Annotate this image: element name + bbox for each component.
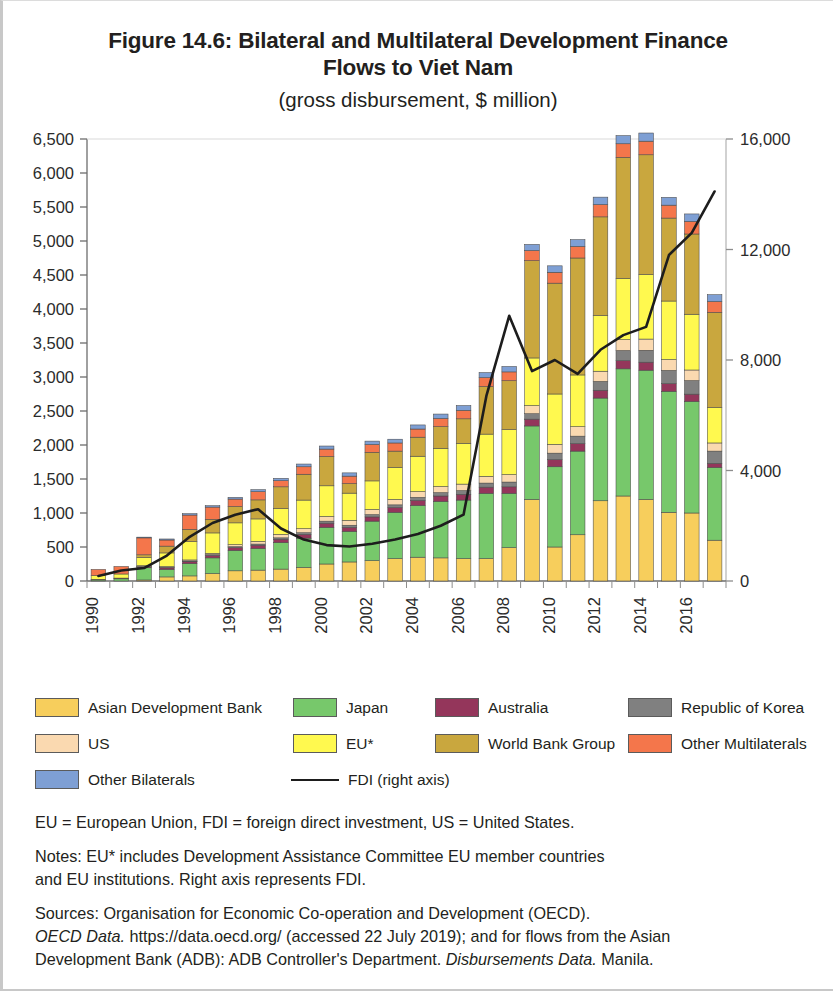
notes-sources: Sources: Organisation for Economic Co-op…	[35, 902, 815, 971]
svg-text:2006: 2006	[449, 597, 467, 634]
svg-text:6,000: 6,000	[33, 164, 74, 182]
svg-text:16,000: 16,000	[740, 130, 790, 148]
legend-label-australia: Australia	[488, 699, 548, 717]
stacked-bar-chart: 05001,0001,5002,0002,5003,0003,5004,0004…	[3, 125, 833, 670]
svg-text:8,000: 8,000	[740, 351, 781, 369]
legend-item-fdi: FDI (right axis)	[291, 763, 450, 796]
figure-title-line2: Flows to Viet Nam	[63, 54, 773, 81]
legend-label-asian-development-bank: Asian Development Bank	[88, 699, 262, 717]
svg-text:1996: 1996	[220, 597, 238, 634]
svg-text:2000: 2000	[312, 597, 330, 634]
figure-notes: EU = European Union, FDI = foreign direc…	[35, 811, 815, 982]
legend-item-eu: EU*	[293, 727, 374, 760]
svg-text:2,500: 2,500	[33, 402, 74, 420]
legend-label-world-bank-group: World Bank Group	[488, 735, 615, 753]
legend-swatch-world-bank-group	[435, 734, 479, 753]
svg-text:1992: 1992	[129, 597, 147, 634]
figure-page: Figure 14.6: Bilateral and Multilateral …	[0, 0, 833, 991]
legend-swatch-australia	[435, 698, 479, 717]
svg-text:2002: 2002	[357, 597, 375, 634]
sources-line3c: Manila.	[597, 950, 654, 968]
title-block: Figure 14.6: Bilateral and Multilateral …	[3, 1, 833, 113]
svg-text:1994: 1994	[175, 597, 193, 634]
svg-text:12,000: 12,000	[740, 240, 790, 258]
legend-row-3: Other Bilaterals FDI (right axis)	[3, 763, 833, 796]
notes-note-line1: Notes: EU* includes Development Assistan…	[35, 847, 605, 865]
legend-label-republic-of-korea: Republic of Korea	[681, 699, 804, 717]
svg-text:1,000: 1,000	[33, 504, 74, 522]
svg-text:5,000: 5,000	[33, 232, 74, 250]
legend-row-2: US EU* World Bank Group Other Multilater…	[3, 727, 833, 760]
svg-text:1,500: 1,500	[33, 470, 74, 488]
notes-abbreviations: EU = European Union, FDI = foreign direc…	[35, 811, 815, 834]
svg-text:1998: 1998	[266, 597, 284, 634]
legend-swatch-us	[35, 734, 79, 753]
sources-oecd-data: OECD Data.	[35, 927, 125, 945]
svg-text:2008: 2008	[494, 597, 512, 634]
legend-swatch-republic-of-korea	[628, 698, 672, 717]
svg-text:3,000: 3,000	[33, 368, 74, 386]
legend-swatch-other-bilaterals	[35, 770, 79, 789]
legend-row-1: Asian Development Bank Japan Australia R…	[3, 691, 833, 724]
notes-note: Notes: EU* includes Development Assistan…	[35, 845, 815, 891]
chart-area: 05001,0001,5002,0002,5003,0003,5004,0004…	[3, 125, 833, 670]
sources-line1: Sources: Organisation for Economic Co-op…	[35, 904, 590, 922]
svg-text:0: 0	[65, 572, 74, 590]
svg-text:6,500: 6,500	[33, 130, 74, 148]
legend-swatch-eu	[293, 734, 337, 753]
legend-item-us: US	[35, 727, 110, 760]
figure-subtitle: (gross disbursement, $ million)	[63, 87, 773, 113]
figure-title: Figure 14.6: Bilateral and Multilateral …	[63, 27, 773, 82]
svg-text:2010: 2010	[540, 597, 558, 634]
legend-item-australia: Australia	[435, 691, 548, 724]
legend-item-other-bilaterals: Other Bilaterals	[35, 763, 195, 796]
chart-legend: Asian Development Bank Japan Australia R…	[3, 691, 833, 801]
legend-swatch-asian-development-bank	[35, 698, 79, 717]
svg-text:2016: 2016	[677, 597, 695, 634]
legend-label-other-multilaterals: Other Multilaterals	[681, 735, 807, 753]
legend-swatch-fdi-line	[291, 770, 339, 789]
svg-text:5,500: 5,500	[33, 198, 74, 216]
svg-text:4,500: 4,500	[33, 266, 74, 284]
legend-label-japan: Japan	[346, 699, 388, 717]
svg-text:4,000: 4,000	[740, 461, 781, 479]
legend-item-japan: Japan	[293, 691, 388, 724]
sources-disbursements-data: Disbursements Data.	[446, 950, 597, 968]
legend-label-other-bilaterals: Other Bilaterals	[88, 771, 195, 789]
legend-swatch-other-multilaterals	[628, 734, 672, 753]
svg-text:1990: 1990	[83, 597, 101, 634]
legend-item-other-multilaterals: Other Multilaterals	[628, 727, 807, 760]
legend-item-republic-of-korea: Republic of Korea	[628, 691, 804, 724]
svg-text:2004: 2004	[403, 597, 421, 634]
legend-label-us: US	[88, 735, 110, 753]
figure-title-line1: Figure 14.6: Bilateral and Multilateral …	[63, 27, 773, 54]
svg-text:500: 500	[46, 538, 74, 556]
legend-swatch-japan	[293, 698, 337, 717]
sources-line3a: Development Bank (ADB): ADB Controller's…	[35, 950, 446, 968]
svg-text:0: 0	[740, 572, 749, 590]
legend-label-eu: EU*	[346, 735, 374, 753]
notes-note-line2: and EU institutions. Right axis represen…	[35, 870, 366, 888]
svg-text:4,000: 4,000	[33, 300, 74, 318]
legend-item-asian-development-bank: Asian Development Bank	[35, 691, 262, 724]
svg-text:2014: 2014	[631, 597, 649, 634]
legend-item-world-bank-group: World Bank Group	[435, 727, 615, 760]
svg-text:2012: 2012	[585, 597, 603, 634]
legend-label-fdi: FDI (right axis)	[348, 771, 450, 789]
svg-text:3,500: 3,500	[33, 334, 74, 352]
sources-line2b: https://data.oecd.org/ (accessed 22 July…	[125, 927, 670, 945]
svg-text:2,000: 2,000	[33, 436, 74, 454]
